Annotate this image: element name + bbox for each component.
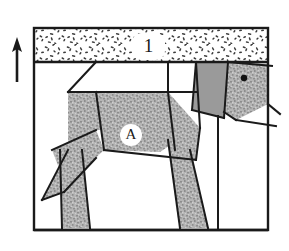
figure-canvas: 1 A [0,0,289,251]
crease-muzzle-top [268,104,280,114]
dog-diagram-svg: 1 A [0,0,289,251]
dog-eye-icon [241,75,247,81]
up-arrow-icon [12,37,22,82]
body-label-a: A [126,126,137,142]
body-label-group: A [120,124,142,146]
band-label-group: 1 [132,33,165,60]
band-label-1: 1 [144,35,154,56]
